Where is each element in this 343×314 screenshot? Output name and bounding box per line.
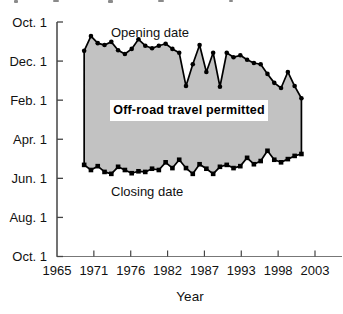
opening-date-point bbox=[258, 62, 263, 67]
y-tick-label: Jun. 1 bbox=[0, 171, 47, 186]
closing-date-point bbox=[265, 148, 270, 153]
closing-date-point bbox=[279, 160, 284, 165]
opening-date-point bbox=[89, 34, 94, 39]
opening-date-point bbox=[197, 43, 202, 48]
y-tick-label: Oct. 1 bbox=[0, 15, 47, 30]
opening-date-point bbox=[163, 41, 168, 46]
closing-date-point bbox=[102, 170, 107, 175]
opening-date-point bbox=[184, 84, 189, 89]
x-tick-label: 1987 bbox=[190, 263, 219, 278]
closing-date-point bbox=[231, 166, 236, 171]
closing-date-point bbox=[184, 166, 189, 171]
closing-date-point bbox=[150, 166, 155, 171]
opening-date-point bbox=[252, 61, 257, 66]
closing-date-point bbox=[252, 162, 257, 167]
closing-date-point bbox=[170, 166, 175, 171]
closing-date-point bbox=[224, 163, 229, 168]
opening-date-point bbox=[82, 49, 87, 54]
y-tick-label: Feb. 1 bbox=[0, 93, 47, 108]
opening-date-point bbox=[265, 72, 270, 77]
closing-date-point bbox=[109, 172, 114, 177]
closing-date-point bbox=[286, 157, 291, 162]
closing-date-point bbox=[129, 171, 134, 176]
opening-date-point bbox=[109, 40, 114, 45]
opening-date-point bbox=[279, 86, 284, 91]
opening-date-point bbox=[286, 70, 291, 75]
closing-date-point bbox=[245, 156, 250, 161]
opening-date-point bbox=[102, 43, 107, 48]
y-tick-label: Dec. 1 bbox=[0, 54, 47, 69]
closing-date-point bbox=[299, 152, 304, 157]
x-tick-label: 1982 bbox=[153, 263, 182, 278]
opening-date-point bbox=[170, 47, 175, 52]
opening-date-point bbox=[238, 53, 243, 58]
closing-date-point bbox=[238, 164, 243, 169]
closing-date-point bbox=[218, 165, 223, 170]
opening-date-point bbox=[224, 50, 229, 55]
opening-date-point bbox=[123, 52, 128, 57]
closing-date-series-label: Closing date bbox=[111, 184, 183, 199]
x-tick-label: 1971 bbox=[79, 263, 108, 278]
x-axis-title: Year bbox=[158, 289, 222, 304]
opening-date-point bbox=[157, 43, 162, 48]
closing-date-point bbox=[211, 172, 216, 177]
closing-date-point bbox=[143, 170, 148, 175]
opening-date-point bbox=[129, 47, 134, 52]
opening-date-point bbox=[292, 84, 297, 89]
y-tick-label: Oct. 1 bbox=[0, 249, 47, 264]
y-tick-label: Apr. 1 bbox=[0, 132, 47, 147]
permitted-annotation-box: Off-road travel permitted bbox=[110, 100, 268, 121]
opening-date-point bbox=[116, 48, 121, 53]
closing-date-point bbox=[136, 169, 141, 174]
closing-date-point bbox=[157, 168, 162, 173]
opening-date-point bbox=[95, 41, 100, 46]
x-tick-label: 1993 bbox=[227, 263, 256, 278]
opening-date-point bbox=[177, 50, 182, 55]
closing-date-point bbox=[123, 168, 128, 173]
opening-date-point bbox=[299, 96, 304, 101]
figure-canvas: Oct. 1Dec. 1Feb. 1Apr. 1Jun. 1Aug. 1Oct.… bbox=[0, 0, 343, 314]
x-tick-label: 2003 bbox=[301, 263, 330, 278]
closing-date-point bbox=[89, 168, 94, 173]
closing-date-point bbox=[204, 166, 209, 171]
opening-date-point bbox=[204, 70, 209, 75]
closing-date-point bbox=[258, 159, 263, 164]
opening-date-series-label: Opening date bbox=[111, 25, 189, 40]
opening-date-point bbox=[272, 81, 277, 86]
opening-date-point bbox=[150, 46, 155, 51]
closing-date-point bbox=[197, 162, 202, 167]
closing-date-point bbox=[163, 160, 168, 165]
x-tick-label: 1998 bbox=[264, 263, 293, 278]
closing-date-point bbox=[272, 157, 277, 162]
closing-date-point bbox=[190, 172, 195, 177]
y-tick-label: Aug. 1 bbox=[0, 210, 47, 225]
closing-date-point bbox=[95, 164, 100, 169]
opening-date-point bbox=[143, 43, 148, 48]
x-tick-label: 1965 bbox=[43, 263, 72, 278]
opening-date-point bbox=[190, 62, 195, 67]
closing-date-point bbox=[82, 163, 87, 168]
opening-date-point bbox=[211, 50, 216, 55]
closing-date-point bbox=[177, 157, 182, 162]
closing-date-point bbox=[116, 165, 121, 170]
closing-date-point bbox=[292, 154, 297, 159]
opening-date-point bbox=[231, 55, 236, 60]
x-tick-label: 1976 bbox=[116, 263, 145, 278]
opening-date-point bbox=[245, 58, 250, 63]
opening-date-point bbox=[218, 84, 223, 89]
